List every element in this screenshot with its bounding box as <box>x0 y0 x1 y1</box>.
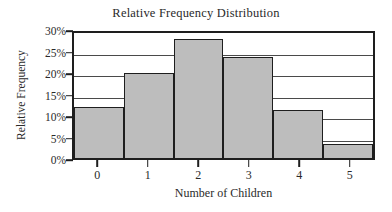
y-axis-title: Relative Frequency <box>15 31 33 160</box>
bar-1 <box>124 73 174 158</box>
bar-5 <box>323 144 373 158</box>
x-axis-tick-mark <box>147 160 149 167</box>
x-axis-tick-mark <box>298 160 300 167</box>
y-axis-tick-label: 20% <box>32 68 66 80</box>
x-axis-tick-label: 0 <box>94 168 100 183</box>
bar-2 <box>174 39 224 158</box>
bar-4 <box>273 110 323 158</box>
y-axis-tick-label: 15% <box>32 90 66 102</box>
x-axis-tick-mark <box>197 160 199 167</box>
y-axis-tick-label: 10% <box>32 111 66 123</box>
x-axis-tick-mark <box>248 160 250 167</box>
y-axis-tick-label: 0% <box>32 154 66 166</box>
x-axis-tick-label: 1 <box>145 168 151 183</box>
x-axis-title: Number of Children <box>72 186 375 201</box>
y-axis-title-container: Relative Frequency <box>14 31 32 160</box>
bar-series <box>74 33 373 158</box>
y-axis-tick-label: 30% <box>32 25 66 37</box>
bar-3 <box>223 57 273 158</box>
x-axis-tick-label: 5 <box>347 168 353 183</box>
y-axis-tick-label: 5% <box>32 133 66 145</box>
y-axis-tick-label: 25% <box>32 47 66 59</box>
relative-frequency-histogram: Relative Frequency Distribution Relative… <box>0 0 392 212</box>
x-axis-tick-label: 4 <box>296 168 302 183</box>
x-axis-tick-mark <box>349 160 351 167</box>
chart-title: Relative Frequency Distribution <box>0 6 392 21</box>
x-axis-tick-label: 3 <box>246 168 252 183</box>
plot-area <box>72 31 375 160</box>
x-axis-tick-mark <box>96 160 98 167</box>
bar-0 <box>74 107 124 158</box>
x-axis-tick-label: 2 <box>195 168 201 183</box>
